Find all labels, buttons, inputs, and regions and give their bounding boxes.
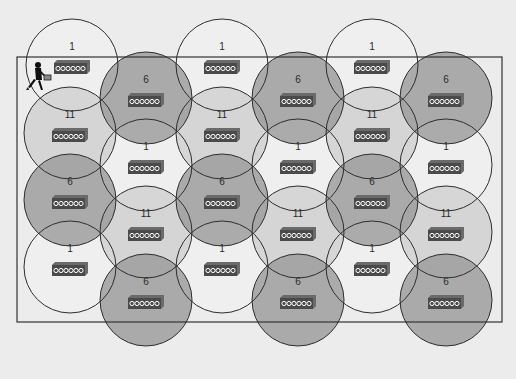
channel-label: 1 (143, 141, 149, 152)
access-point-icon (128, 295, 164, 309)
access-point-icon (428, 160, 464, 174)
access-point-icon (52, 128, 88, 142)
access-point-icon (54, 60, 90, 74)
channel-label: 11 (367, 109, 378, 120)
channel-label: 6 (219, 176, 225, 187)
access-point-icon (280, 227, 316, 241)
access-point-icon (204, 60, 240, 74)
channel-label: 11 (293, 208, 304, 219)
access-point-icon (354, 195, 390, 209)
access-point-icon (280, 160, 316, 174)
channel-label: 6 (443, 276, 449, 287)
coverage-fills (24, 19, 492, 346)
channel-label: 1 (67, 243, 73, 254)
access-point-icon (280, 295, 316, 309)
channel-label: 6 (443, 74, 449, 85)
channel-label: 11 (65, 109, 76, 120)
channel-label: 11 (217, 109, 228, 120)
access-point-icon (128, 160, 164, 174)
access-point-icon (52, 195, 88, 209)
access-point-icon (428, 227, 464, 241)
access-point-icon (52, 262, 88, 276)
channel-label: 1 (295, 141, 301, 152)
access-point-icon (280, 93, 316, 107)
channel-label: 1 (369, 243, 375, 254)
access-point-icon (204, 128, 240, 142)
access-point-icon (428, 295, 464, 309)
channel-label: 11 (141, 208, 152, 219)
access-point-icon (204, 195, 240, 209)
channel-label: 1 (69, 41, 75, 52)
access-point-icon (354, 128, 390, 142)
access-point-icon (204, 262, 240, 276)
channel-label: 6 (295, 276, 301, 287)
channel-label: 6 (143, 74, 149, 85)
channel-label: 6 (143, 276, 149, 287)
channel-label: 1 (369, 41, 375, 52)
access-point-icon (354, 262, 390, 276)
channel-label: 6 (67, 176, 73, 187)
channel-label: 11 (441, 208, 452, 219)
channel-reuse-diagram: 111616111611161611161116161116 (0, 0, 516, 379)
access-point-icon (354, 60, 390, 74)
channel-label: 6 (369, 176, 375, 187)
access-point-icon (428, 93, 464, 107)
access-point-icon (128, 93, 164, 107)
access-point-icon (128, 227, 164, 241)
channel-label: 1 (219, 243, 225, 254)
channel-label: 1 (443, 141, 449, 152)
channel-label: 1 (219, 41, 225, 52)
channel-label: 6 (295, 74, 301, 85)
